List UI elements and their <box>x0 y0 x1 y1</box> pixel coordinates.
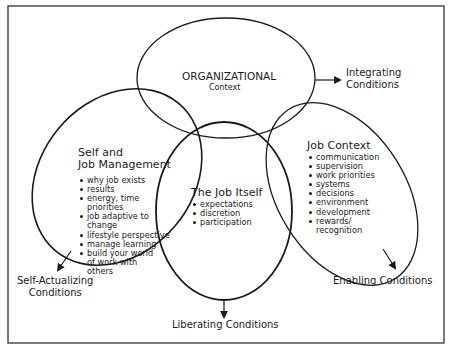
self-actualizing-line-1: Self-Actualizing <box>17 275 93 287</box>
integrating-line-2: Conditions <box>346 79 401 91</box>
list-item: job adaptive tochange <box>79 212 170 230</box>
list-item: rewards/recognition <box>308 217 379 235</box>
bullet-icon <box>309 174 312 177</box>
bullet-icon <box>309 156 312 159</box>
job-context-list: communication supervision work prioritie… <box>308 153 379 235</box>
bullet-icon <box>309 165 312 168</box>
bullet-icon <box>80 252 83 255</box>
bullet-icon <box>80 179 83 182</box>
bullet-icon <box>309 201 312 204</box>
integrating-line-1: Integrating <box>346 67 401 79</box>
bullet-icon <box>193 221 196 224</box>
self-management-title: Self and Job Management <box>78 147 171 171</box>
list-item: build your worldof work withothers <box>79 249 170 276</box>
job-itself-list: expectations discretion participation <box>192 200 253 227</box>
self-management-list: why job exists results energy, timeprior… <box>79 176 170 276</box>
list-item: participation <box>192 218 253 227</box>
self-actualizing-conditions-label: Self-Actualizing Conditions <box>17 275 93 299</box>
bullet-icon <box>309 211 312 214</box>
bullet-icon <box>309 183 312 186</box>
bullet-icon <box>80 188 83 191</box>
job-itself-title: The Job Itself <box>191 187 262 199</box>
list-item: energy, timepriorities <box>79 194 170 212</box>
job-context-title: Job Context <box>307 140 371 152</box>
bullet-icon <box>309 220 312 223</box>
bullet-icon <box>80 234 83 237</box>
self-actualizing-line-2: Conditions <box>17 287 93 299</box>
liberating-conditions-label: Liberating Conditions <box>172 319 279 331</box>
organizational-subtitle: Context <box>209 84 240 92</box>
organizational-title: ORGANIZATIONAL <box>182 70 276 82</box>
bullet-icon <box>193 203 196 206</box>
bullet-icon <box>80 215 83 218</box>
integrating-conditions-label: Integrating Conditions <box>346 67 401 91</box>
enabling-arrow <box>383 249 395 268</box>
self-management-title-line-2: Job Management <box>78 159 171 171</box>
bullet-icon <box>80 243 83 246</box>
bullet-icon <box>80 197 83 200</box>
enabling-conditions-label: Enabling Conditions <box>333 275 432 287</box>
bullet-icon <box>309 192 312 195</box>
bullet-icon <box>193 212 196 215</box>
